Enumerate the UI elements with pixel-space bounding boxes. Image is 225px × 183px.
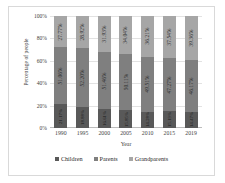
legend-item-grandparents[interactable]: Grandparents [129, 155, 168, 162]
bar-segment-parents[interactable]: 46.17% [185, 60, 198, 112]
bar-segment-grandparents[interactable]: 34.04% [119, 16, 132, 54]
bar-segment-grandparents[interactable]: 31.93% [98, 16, 111, 52]
data-label-grandparents: 31.93% [101, 25, 107, 42]
data-label-parents: 50.11% [123, 74, 129, 91]
data-label-grandparents: 34.04% [123, 27, 129, 44]
data-label-grandparents: 39.36% [188, 30, 194, 47]
data-label-parents: 47.27% [166, 76, 172, 93]
y-axis-tick-label: 100% [34, 13, 47, 19]
data-label-parents: 49.51% [145, 76, 151, 93]
y-axis-tick-label: 60% [37, 58, 47, 64]
x-axis-tick-2005: 2005 [119, 130, 132, 136]
bar-segment-children[interactable]: 18.88% [76, 107, 89, 128]
data-label-children: 18.88% [80, 110, 85, 125]
bar-segment-parents[interactable]: 50.11% [119, 54, 132, 110]
bar-1995[interactable]: 28.92%52.20%18.88% [76, 16, 89, 128]
data-label-children: 14.47% [189, 112, 194, 127]
y-axis-title: Percentage of people [23, 21, 29, 103]
bar-2010[interactable]: 36.21%49.51%14.28% [141, 16, 154, 128]
bar-segment-children[interactable]: 14.47% [185, 112, 198, 128]
x-axis-tick-1995: 1995 [76, 130, 89, 136]
data-label-grandparents: 37.54% [166, 29, 172, 46]
bar-segment-parents[interactable]: 49.51% [141, 57, 154, 112]
x-axis-tick-2015: 2015 [163, 130, 176, 136]
x-axis-tick-2000: 2000 [98, 130, 111, 136]
data-label-children: 15.19% [167, 112, 172, 127]
data-label-parents: 52.20% [80, 69, 86, 86]
legend-label: Grandparents [135, 155, 168, 162]
x-axis-tick-2010: 2010 [141, 130, 154, 136]
legend-swatch-icon [94, 157, 98, 161]
data-label-children: 15.85% [123, 112, 128, 127]
data-label-children: 14.28% [145, 113, 150, 128]
y-axis-tick-label: 20% [37, 103, 47, 109]
x-axis-tick-1990: 1990 [54, 130, 67, 136]
bar-segment-parents[interactable]: 51.46% [98, 52, 111, 110]
bar-2019[interactable]: 39.36%46.17%14.47% [185, 16, 198, 128]
bar-segment-children[interactable]: 15.19% [163, 111, 176, 128]
x-axis-tick-2019: 2019 [185, 130, 198, 136]
x-axis-tick-labels: 1990199520002005201020152019 [50, 130, 202, 136]
x-axis-title: Year [50, 141, 202, 147]
data-label-parents: 46.17% [188, 77, 194, 94]
data-label-children: 21.17% [58, 109, 63, 124]
legend-label: Children [61, 155, 83, 162]
plot-area: 0%20%40%60%80%100% 27.77%51.06%21.17%28.… [50, 16, 202, 128]
chart-frame: Percentage of people 0%20%40%60%80%100% … [8, 6, 215, 176]
legend-label: Parents [100, 155, 118, 162]
y-axis-tick-label: 40% [37, 80, 47, 86]
legend-swatch-icon [55, 157, 59, 161]
legend-item-parents[interactable]: Parents [94, 155, 118, 162]
bar-2000[interactable]: 31.93%51.46%16.61% [98, 16, 111, 128]
legend-swatch-icon [129, 157, 133, 161]
data-label-parents: 51.06% [58, 67, 64, 84]
data-label-grandparents: 28.92% [80, 24, 86, 41]
bar-segment-grandparents[interactable]: 36.21% [141, 16, 154, 57]
bar-2015[interactable]: 37.54%47.27%15.19% [163, 16, 176, 128]
bar-segment-children[interactable]: 14.28% [141, 112, 154, 128]
bar-segment-grandparents[interactable]: 27.77% [54, 16, 67, 47]
data-label-grandparents: 27.77% [58, 23, 64, 40]
bar-segment-grandparents[interactable]: 39.36% [185, 16, 198, 60]
bar-segment-children[interactable]: 16.61% [98, 109, 111, 128]
bar-2005[interactable]: 34.04%50.11%15.85% [119, 16, 132, 128]
data-label-children: 16.61% [102, 111, 107, 126]
bar-group: 27.77%51.06%21.17%28.92%52.20%18.88%31.9… [50, 16, 202, 128]
bar-segment-children[interactable]: 21.17% [54, 104, 67, 128]
bar-1990[interactable]: 27.77%51.06%21.17% [54, 16, 67, 128]
bar-segment-grandparents[interactable]: 28.92% [76, 16, 89, 48]
legend-item-children[interactable]: Children [55, 155, 83, 162]
bar-segment-parents[interactable]: 51.06% [54, 47, 67, 104]
bar-segment-parents[interactable]: 47.27% [163, 58, 176, 111]
data-label-parents: 51.46% [101, 72, 107, 89]
bar-segment-grandparents[interactable]: 37.54% [163, 16, 176, 58]
data-label-grandparents: 36.21% [145, 28, 151, 45]
bar-segment-children[interactable]: 15.85% [119, 110, 132, 128]
chart-legend: ChildrenParentsGrandparents [9, 155, 214, 162]
y-axis-tick-label: 80% [37, 35, 47, 41]
y-axis-tick-label: 0% [40, 125, 47, 131]
bar-segment-parents[interactable]: 52.20% [76, 48, 89, 106]
